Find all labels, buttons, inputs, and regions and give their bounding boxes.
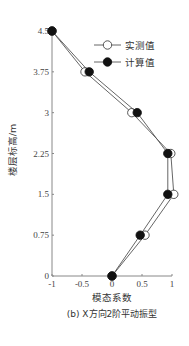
filled-circle-marker: [164, 149, 172, 157]
y-tick-label: 3.75: [33, 67, 49, 77]
y-tick-label: 0.75: [33, 230, 49, 240]
series-line: [52, 31, 174, 276]
y-tick-label: 3: [45, 108, 50, 118]
x-tick-label: -1: [48, 279, 56, 289]
figure-caption: (b) X方向2阶平动振型: [67, 308, 158, 319]
filled-circle-marker: [136, 231, 144, 239]
y-tick-label: 2.25: [33, 149, 49, 159]
x-tick-label: -0.5: [75, 279, 90, 289]
y-axis-label: 楼层标高/m: [7, 124, 18, 176]
x-axis-label: 模态系数: [92, 292, 132, 303]
series-line: [52, 31, 168, 276]
legend-hollow-circle-icon: [103, 41, 111, 49]
filled-circle-marker: [108, 272, 116, 280]
legend-filled-circle-icon: [103, 58, 111, 66]
filled-circle-marker: [164, 190, 172, 198]
filled-circle-marker: [48, 27, 56, 35]
x-tick-label: 0.5: [136, 279, 148, 289]
series-measured: [48, 27, 178, 280]
y-tick-label: 1.5: [38, 189, 50, 199]
filled-circle-marker: [85, 68, 93, 76]
legend-label: 实测值: [125, 40, 155, 51]
x-tick-label: 1: [170, 279, 175, 289]
legend-label: 计算值: [125, 57, 155, 68]
y-tick-label: 0: [45, 271, 50, 281]
series-group: [48, 27, 178, 280]
legend: 实测值计算值: [94, 40, 155, 68]
mode-shape-chart: -1-0.500.5100.751.52.2533.754.5 实测值计算值 模…: [0, 0, 189, 346]
filled-circle-marker: [133, 108, 141, 116]
